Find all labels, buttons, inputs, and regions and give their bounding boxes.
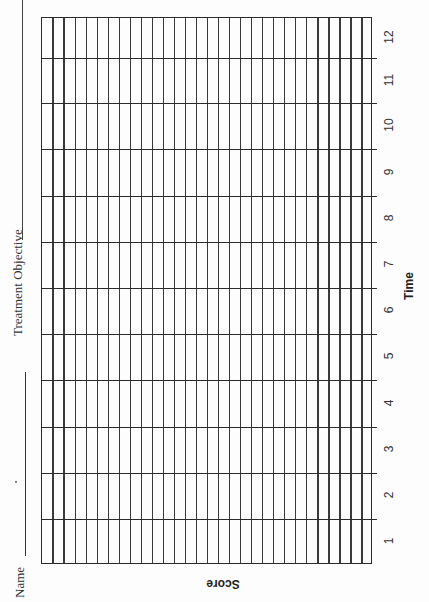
score-gridline: [75, 18, 76, 563]
time-gridline: [41, 242, 377, 243]
score-gridline: [273, 18, 274, 563]
score-gridline: [229, 18, 230, 563]
time-tick-label: 2: [382, 485, 396, 505]
score-gridline: [119, 18, 120, 563]
score-gridline: [361, 18, 362, 563]
time-gridline: [41, 519, 377, 520]
score-chart-form: Treatment Objective Name 121110987654321…: [0, 0, 429, 602]
score-gridline: [295, 18, 296, 563]
score-gridline: [141, 18, 142, 563]
time-tick-label: 3: [382, 439, 396, 459]
time-gridline: [41, 380, 377, 381]
treatment-objective-label: Treatment Objective: [10, 229, 26, 336]
name-field-line[interactable]: [25, 372, 26, 556]
stray-mark: [15, 481, 17, 483]
time-gridline: [41, 103, 377, 104]
time-tick-label: 1: [382, 531, 396, 551]
score-gridline: [218, 18, 219, 563]
time-tick-label: 8: [382, 208, 396, 228]
time-tick-label: 6: [382, 300, 396, 320]
score-gridline: [306, 18, 307, 563]
time-gridline: [41, 196, 377, 197]
score-gridline: [97, 18, 98, 563]
time-gridline: [41, 149, 377, 150]
score-gridline: [163, 18, 164, 563]
time-tick-label: 4: [382, 393, 396, 413]
time-tick-label: 12: [382, 27, 396, 47]
score-gridline: [185, 18, 186, 563]
time-gridline: [41, 58, 377, 59]
time-axis-title: Time: [402, 266, 416, 306]
time-gridline: [41, 334, 377, 335]
score-gridline: [251, 18, 252, 563]
score-gridline: [174, 18, 175, 563]
time-gridline: [41, 288, 377, 289]
time-tick-label: 11: [382, 70, 396, 90]
name-label: Name: [12, 567, 28, 598]
score-gridline: [196, 18, 197, 563]
score-gridline: [86, 18, 87, 563]
score-gridline: [207, 18, 208, 563]
score-axis-title: Score: [198, 577, 248, 591]
time-tick-label: 9: [382, 162, 396, 182]
score-gridline: [284, 18, 285, 563]
time-tick-label: 7: [382, 254, 396, 274]
time-gridline: [41, 473, 377, 474]
score-gridline: [63, 18, 64, 563]
score-gridline: [152, 18, 153, 563]
score-gridline: [130, 18, 131, 563]
treatment-objective-field-line[interactable]: [22, 0, 23, 240]
score-grid: [41, 17, 372, 564]
time-gridline: [41, 427, 377, 428]
score-gridline: [328, 18, 329, 563]
score-gridline: [262, 18, 263, 563]
score-gridline: [350, 18, 351, 563]
score-gridline: [240, 18, 241, 563]
time-tick-label: 5: [382, 346, 396, 366]
score-gridline: [108, 18, 109, 563]
time-tick-label: 10: [382, 115, 396, 135]
score-gridline: [339, 18, 340, 563]
score-gridline: [317, 18, 318, 563]
score-gridline: [52, 18, 53, 563]
